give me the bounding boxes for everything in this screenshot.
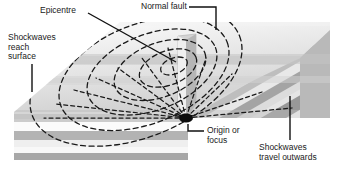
label-shockwaves-travel-outwards: Shockwaves travel outwards — [259, 143, 317, 162]
label-normal-fault: Normal fault — [141, 2, 187, 12]
label-epicentre: Epicentre — [40, 6, 76, 16]
focus-point — [179, 114, 193, 123]
label-origin-or-focus: Origin or focus — [207, 126, 240, 145]
label-shockwaves-reach-surface: Shockwaves reach surface — [8, 33, 56, 62]
earthquake-block-diagram: Epicentre Normal fault Shockwaves reach … — [0, 0, 356, 181]
leader-origin-focus — [188, 124, 204, 131]
